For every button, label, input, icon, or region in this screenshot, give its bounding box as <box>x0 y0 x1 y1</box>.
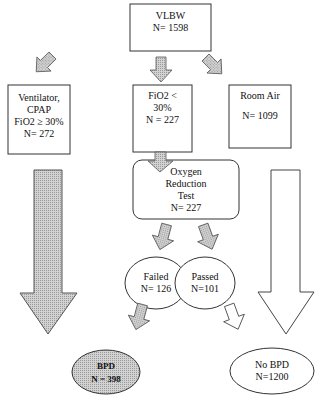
ventilator-count: N= 272 <box>8 128 70 140</box>
fio2-line1: FiO2 < <box>133 90 192 102</box>
passed-title: Passed <box>175 271 235 283</box>
fio2-line2: 30% <box>133 102 192 114</box>
room-air-label: Room Air N= 1099 <box>229 90 291 122</box>
fio2-low-label: FiO2 < 30% N = 227 <box>133 90 192 126</box>
large-arrow-room-air-to-no-bpd <box>258 170 314 334</box>
vlbw-title: VLBW <box>130 10 211 22</box>
bpd-label: BPD N = 398 <box>72 360 140 386</box>
oxygen-test-label: Oxygen Reduction Test N= 227 <box>133 166 239 214</box>
bpd-title: BPD <box>72 360 140 373</box>
large-arrow-ventilator-to-bpd <box>20 170 77 334</box>
arrow-root-to-ventilator <box>29 48 59 78</box>
ventilator-line3: FiO2 ≥ 30% <box>8 116 70 128</box>
ventilator-label: Ventilator, CPAP FiO2 ≥ 30% N= 272 <box>8 92 70 140</box>
oxygen-test-line3: Test <box>133 190 239 202</box>
vlbw-count: N= 1598 <box>130 22 211 34</box>
passed-count: N=101 <box>175 283 235 295</box>
arrow-test-to-failed <box>149 222 177 253</box>
arrow-passed-to-no-bpd <box>219 301 249 333</box>
oxygen-test-count: N= 227 <box>133 202 239 214</box>
room-air-title: Room Air <box>229 90 291 102</box>
arrow-test-to-passed <box>193 221 223 253</box>
ventilator-line1: Ventilator, <box>8 92 70 104</box>
arrow-root-to-room-air <box>198 50 228 80</box>
bpd-count: N = 398 <box>72 373 140 386</box>
oxygen-test-line1: Oxygen <box>133 166 239 178</box>
arrow-root-to-fio2 <box>150 57 172 82</box>
passed-label: Passed N=101 <box>175 271 235 295</box>
no-bpd-title: No BPD <box>230 359 314 371</box>
oxygen-test-line2: Reduction <box>133 178 239 190</box>
no-bpd-label: No BPD N=1200 <box>230 359 314 383</box>
room-air-count: N= 1099 <box>229 110 291 122</box>
ventilator-line2: CPAP <box>8 104 70 116</box>
no-bpd-count: N=1200 <box>230 371 314 383</box>
vlbw-label: VLBW N= 1598 <box>130 10 211 34</box>
fio2-count: N = 227 <box>133 114 192 126</box>
